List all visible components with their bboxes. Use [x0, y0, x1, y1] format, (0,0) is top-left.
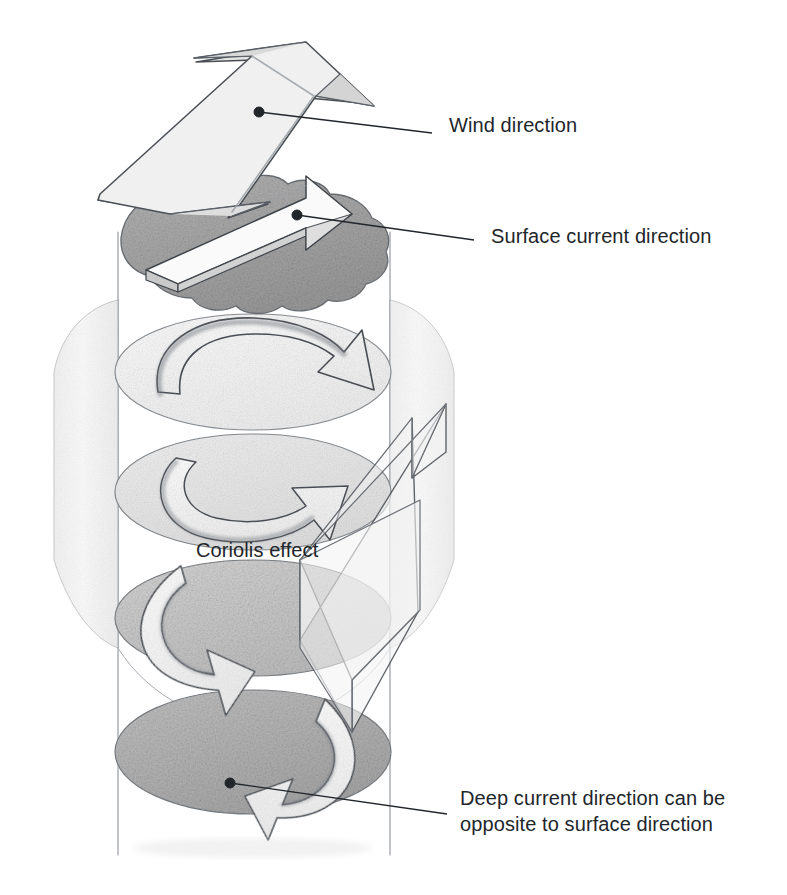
diagram-canvas: Wind direction Surface current direction… — [0, 0, 787, 895]
layer-disc-1 — [115, 314, 391, 430]
layer-disc-2 — [115, 434, 391, 550]
label-deep-current-direction: Deep current direction can be opposite t… — [460, 785, 725, 837]
ekman-spiral-illustration — [0, 0, 787, 895]
wind-arrow — [98, 42, 374, 218]
label-coriolis-effect: Coriolis effect — [196, 537, 318, 563]
label-wind-direction: Wind direction — [449, 112, 577, 138]
label-surface-current-direction: Surface current direction — [491, 223, 711, 249]
